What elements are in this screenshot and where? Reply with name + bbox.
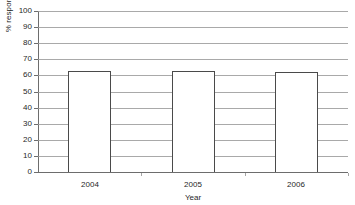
- y-axis-tick: [34, 11, 38, 12]
- plot-area: [38, 11, 348, 172]
- y-axis-tick-label: 40: [8, 104, 32, 112]
- y-axis-tick-label: 0: [8, 168, 32, 176]
- y-axis-tick-label: 70: [8, 55, 32, 63]
- y-axis-tick: [34, 156, 38, 157]
- y-axis-tick-label: 50: [8, 88, 32, 96]
- bar: [275, 72, 318, 172]
- x-axis-tick-label: 2006: [266, 180, 326, 189]
- y-axis-tick: [34, 172, 38, 173]
- gridline: [38, 172, 348, 173]
- y-axis-tick: [34, 140, 38, 141]
- x-axis-tick: [245, 173, 246, 176]
- y-axis-tick: [34, 92, 38, 93]
- gridline: [38, 59, 348, 60]
- x-axis-title: Year: [38, 193, 348, 202]
- y-axis-tick: [34, 124, 38, 125]
- bar-chart: % respondents 0102030405060708090100 200…: [0, 0, 355, 205]
- gridline: [38, 43, 348, 44]
- gridline: [38, 11, 348, 12]
- x-axis-tick-label: 2005: [163, 180, 223, 189]
- gridline: [38, 27, 348, 28]
- y-axis-tick-label: 30: [8, 120, 32, 128]
- y-axis-tick-label: 90: [8, 23, 32, 31]
- y-axis-tick-label: 100: [8, 7, 32, 15]
- y-axis-tick-label: 80: [8, 39, 32, 47]
- y-axis-tick: [34, 75, 38, 76]
- y-axis-tick-label: 20: [8, 136, 32, 144]
- bar: [172, 71, 215, 172]
- y-axis-tick: [34, 27, 38, 28]
- y-axis-tick: [34, 59, 38, 60]
- bar: [68, 71, 111, 172]
- x-axis-tick: [348, 173, 349, 176]
- x-axis-tick: [141, 173, 142, 176]
- y-axis-tick: [34, 108, 38, 109]
- y-axis-tick: [34, 43, 38, 44]
- y-axis-tick-label: 10: [8, 152, 32, 160]
- x-axis-tick-label: 2004: [60, 180, 120, 189]
- y-axis-tick-label: 60: [8, 71, 32, 79]
